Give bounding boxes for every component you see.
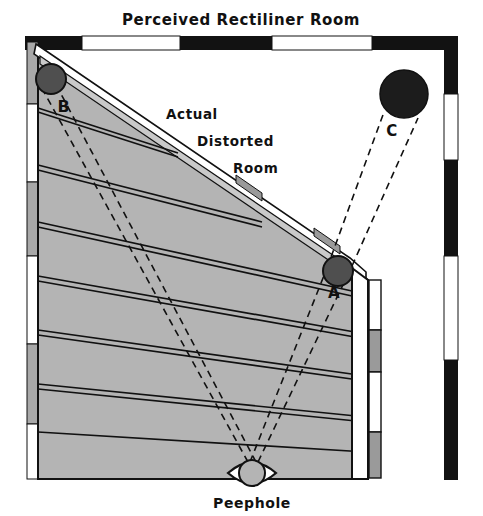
ball-a-label: A bbox=[328, 284, 340, 302]
top-border-seg-2 bbox=[82, 36, 180, 50]
right-border-seg-4 bbox=[444, 256, 458, 360]
figure-canvas: Perceived Rectiliner Room bbox=[0, 0, 483, 516]
top-border-seg-4 bbox=[272, 36, 372, 50]
annotation-line-room: Room bbox=[233, 160, 278, 176]
right-border-seg-5 bbox=[444, 360, 458, 480]
left-wall-seg-3 bbox=[27, 182, 38, 256]
top-border-seg-3 bbox=[180, 36, 272, 50]
inner-wall-seg-2 bbox=[369, 330, 381, 372]
sightline-c-right bbox=[352, 118, 418, 266]
ball-b[interactable] bbox=[36, 64, 66, 94]
ball-c-group[interactable]: C bbox=[380, 70, 428, 140]
annotation-line-actual: Actual bbox=[166, 106, 218, 122]
right-border-seg-3 bbox=[444, 160, 458, 256]
figure-title: Perceived Rectiliner Room bbox=[122, 11, 360, 29]
ball-c-label: C bbox=[386, 122, 398, 140]
left-wall-seg-5 bbox=[27, 344, 38, 424]
sightline-c-left bbox=[327, 112, 384, 268]
peephole-label: Peephole bbox=[213, 495, 291, 511]
ball-c[interactable] bbox=[380, 70, 428, 118]
ball-b-label: B bbox=[58, 97, 71, 116]
left-wall-seg-6 bbox=[27, 424, 38, 479]
right-border-seg-2 bbox=[444, 94, 458, 160]
right-inner-wall-face bbox=[352, 268, 368, 479]
right-border-seg-1 bbox=[444, 36, 458, 94]
left-wall-strip bbox=[27, 42, 38, 479]
inner-wall-seg-3 bbox=[369, 372, 381, 432]
left-wall-seg-4 bbox=[27, 256, 38, 344]
peephole-iris[interactable] bbox=[239, 460, 265, 486]
inner-wall-seg-4 bbox=[369, 432, 381, 478]
ball-a[interactable] bbox=[323, 256, 353, 286]
annotation-line-distorted: Distorted bbox=[197, 133, 274, 149]
right-inner-wall bbox=[352, 268, 381, 479]
ames-room-diagram: Perceived Rectiliner Room bbox=[0, 0, 483, 516]
left-wall-seg-2 bbox=[27, 104, 38, 182]
inner-wall-seg-1 bbox=[369, 280, 381, 330]
